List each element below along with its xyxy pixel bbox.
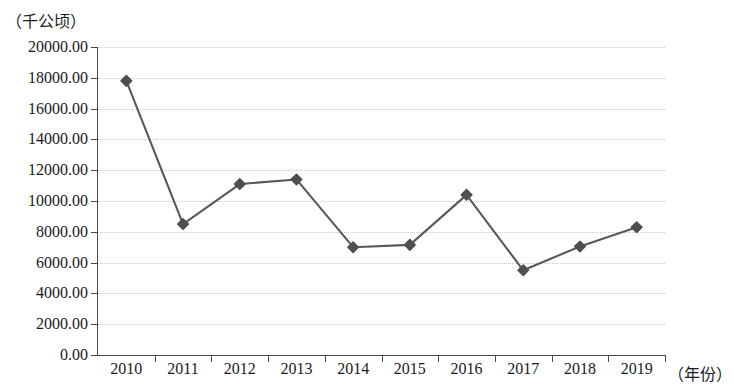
y-axis-tick-label: 18000.00 [2, 70, 88, 86]
y-axis-tick [91, 139, 98, 140]
y-axis-tick [91, 232, 98, 233]
y-axis-tick-label: 14000.00 [2, 131, 88, 147]
x-axis-tick-label: 2016 [437, 361, 497, 377]
series-line [126, 81, 636, 270]
x-axis-tick-label: 2015 [380, 361, 440, 377]
series-svg [98, 47, 665, 355]
x-axis-tick-label: 2019 [607, 361, 667, 377]
y-axis-tick-label: 20000.00 [2, 39, 88, 55]
line-chart: （千公顷） （年份） 20000.0018000.0016000.0014000… [0, 0, 734, 388]
y-axis-tick-label: 6000.00 [2, 255, 88, 271]
y-axis-tick [91, 201, 98, 202]
data-point-marker [575, 241, 585, 251]
x-axis-tick-label: 2012 [210, 361, 270, 377]
x-axis-tick-label: 2011 [153, 361, 213, 377]
x-axis-tick-label: 2017 [493, 361, 553, 377]
y-axis-tick-label: 8000.00 [2, 224, 88, 240]
data-point-marker [631, 222, 641, 232]
x-axis-tick-label: 2014 [323, 361, 383, 377]
y-axis-tick [91, 170, 98, 171]
y-axis-tick [91, 109, 98, 110]
plot-area [98, 47, 665, 355]
y-axis-tick [91, 324, 98, 325]
y-axis-tick [91, 47, 98, 48]
y-axis-tick-labels: 20000.0018000.0016000.0014000.0012000.00… [0, 0, 88, 388]
x-axis-unit-label: （年份） [668, 361, 732, 385]
y-axis-tick-label: 16000.00 [2, 101, 88, 117]
y-axis-tick [91, 293, 98, 294]
y-axis-tick-label: 12000.00 [2, 162, 88, 178]
y-axis-tick-label: 4000.00 [2, 285, 88, 301]
y-axis-tick [91, 263, 98, 264]
x-axis-tick-label: 2010 [96, 361, 156, 377]
y-axis-tick-label: 2000.00 [2, 316, 88, 332]
y-axis-tick [91, 78, 98, 79]
y-axis-tick-label: 0.00 [2, 347, 88, 363]
x-axis-tick-label: 2013 [266, 361, 326, 377]
y-axis-tick [91, 355, 98, 356]
data-point-marker [121, 76, 131, 86]
x-axis-tick-label: 2018 [550, 361, 610, 377]
y-axis-tick-label: 10000.00 [2, 193, 88, 209]
